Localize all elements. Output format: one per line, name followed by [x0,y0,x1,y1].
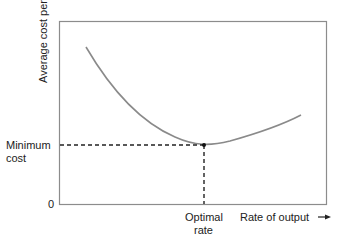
minimum-point [202,143,206,147]
optimal-rate-label-line2: rate [194,224,213,237]
x-axis-label: Rate of output [240,211,309,224]
minimum-cost-label-line2: cost [6,152,26,165]
x-axis-arrow-icon [318,215,331,220]
minimum-cost-label-line1: Minimum [6,139,51,152]
average-cost-curve [86,47,301,144]
optimal-rate-label-line1: Optimal [185,211,223,224]
origin-label: 0 [48,198,54,211]
y-axis-label: Average cost per unit [37,0,49,83]
plot-frame [60,22,327,205]
